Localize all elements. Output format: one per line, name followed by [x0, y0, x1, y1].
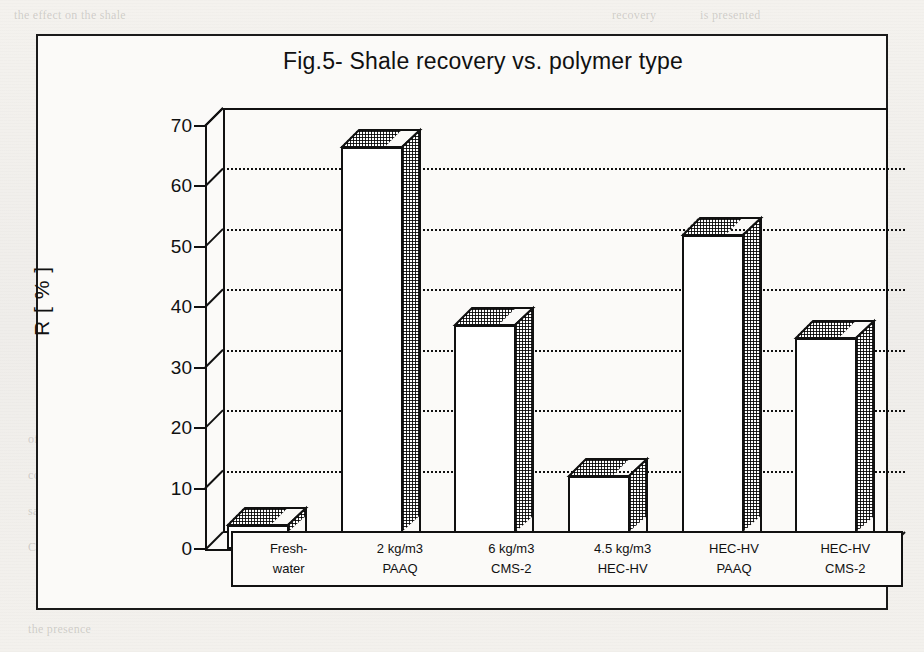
category-label: 4.5 kg/m3HEC-HV — [567, 533, 678, 585]
y-axis-tick-mark — [194, 367, 205, 369]
bar — [795, 320, 857, 550]
category-label: HEC-HVPAAQ — [678, 533, 789, 585]
category-label-line: PAAQ — [716, 559, 751, 579]
plot-area: 706050403020100 R [ % ] — [38, 36, 886, 608]
category-label: 6 kg/m3CMS-2 — [456, 533, 567, 585]
y-axis-back-edge — [223, 108, 225, 533]
y-axis-tick-label: 50 — [144, 236, 192, 258]
category-label: 2 kg/m3PAAQ — [344, 533, 455, 585]
y-axis-tick-label: 0 — [144, 538, 192, 560]
category-label: HEC-HVCMS-2 — [790, 533, 901, 585]
y-axis-tick-mark — [194, 185, 205, 187]
bar-side-outline — [401, 129, 422, 552]
category-label-line: 4.5 kg/m3 — [594, 539, 651, 559]
bar-side-outline — [742, 217, 763, 552]
y-axis-tick-mark — [194, 306, 205, 308]
y-axis-tick-mark — [194, 427, 205, 429]
y-axis-tick-mark — [194, 548, 205, 550]
category-label-line: HEC-HV — [598, 559, 648, 579]
bar — [454, 307, 516, 549]
gridline — [223, 229, 905, 231]
bar-front-face — [341, 147, 403, 549]
gridline — [223, 168, 905, 170]
background-text: recovery — [612, 8, 656, 23]
y-axis-tick-label: 60 — [144, 175, 192, 197]
category-label-line: PAAQ — [382, 559, 417, 579]
bar — [341, 129, 403, 549]
y-axis-tick-mark — [194, 246, 205, 248]
y-axis-tick-mark — [194, 125, 205, 127]
category-label: Fresh-water — [233, 533, 344, 585]
category-label-box: Fresh-water2 kg/m3PAAQ6 kg/m3CMS-24.5 kg… — [231, 531, 903, 587]
bar-front-face — [682, 235, 744, 549]
bar-front-face — [454, 325, 516, 549]
background-text: the presence — [28, 622, 91, 637]
y-axis-tick-mark — [194, 488, 205, 490]
bar-side-outline — [855, 320, 876, 553]
y-axis-label: R [ % ] — [30, 266, 54, 336]
bar-side-outline — [514, 307, 535, 552]
bar-front-face — [795, 338, 857, 550]
category-label-line: CMS-2 — [825, 559, 865, 579]
background-text: the effect on the shale — [14, 8, 126, 23]
background-text: is presented — [700, 8, 761, 23]
category-label-line: Fresh- — [270, 539, 308, 559]
y-axis-tick-label: 30 — [144, 357, 192, 379]
category-label-line: 6 kg/m3 — [488, 539, 534, 559]
category-label-line: water — [273, 559, 305, 579]
bar — [682, 217, 744, 549]
plot-back-wall — [224, 108, 888, 531]
category-label-line: HEC-HV — [709, 539, 759, 559]
y-axis-tick-label: 20 — [144, 417, 192, 439]
gridline — [223, 289, 905, 291]
y-axis-tick-label: 40 — [144, 296, 192, 318]
category-label-line: CMS-2 — [491, 559, 531, 579]
figure-frame: Fig.5- Shale recovery vs. polymer type 7… — [36, 34, 888, 610]
category-label-line: HEC-HV — [820, 539, 870, 559]
category-label-line: 2 kg/m3 — [377, 539, 423, 559]
y-axis-front-edge — [205, 126, 207, 551]
y-axis-tick-label: 70 — [144, 115, 192, 137]
y-axis-tick-label: 10 — [144, 478, 192, 500]
